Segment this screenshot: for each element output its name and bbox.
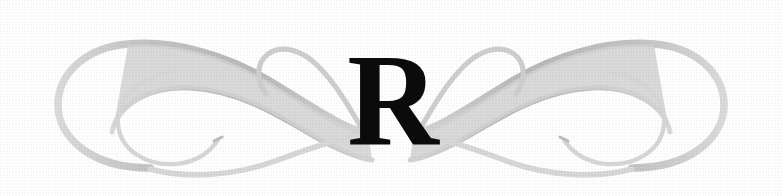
ornament-page: R [0, 0, 782, 196]
dropcap-letter-r: R [18, 2, 769, 196]
dropcap-container: R [0, 0, 782, 196]
